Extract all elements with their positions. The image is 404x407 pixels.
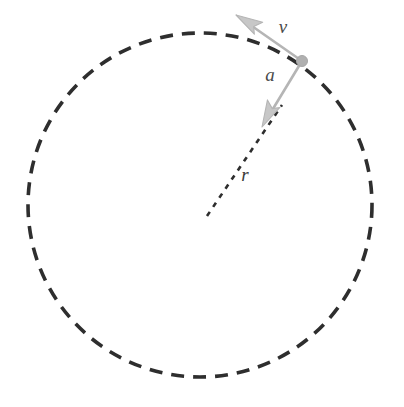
radius-line <box>207 105 282 216</box>
acceleration-label: a <box>265 64 275 85</box>
acceleration-vector-line <box>271 61 302 113</box>
particle-dot <box>297 56 308 67</box>
velocity-label: v <box>279 16 288 37</box>
diagram-canvas: v a r <box>0 0 404 407</box>
dashed-circle-path <box>28 33 372 377</box>
radius-label: r <box>241 164 249 185</box>
circular-motion-diagram: v a r <box>0 0 404 407</box>
